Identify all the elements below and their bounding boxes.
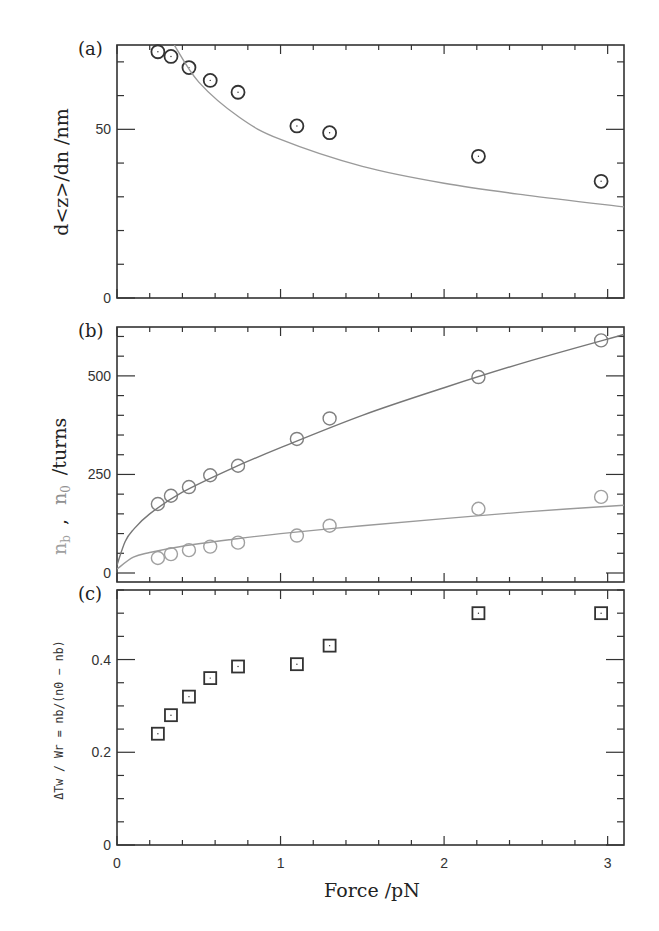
plot-frame — [117, 45, 624, 298]
fit-curve — [174, 45, 624, 207]
x-tick-label: 1 — [277, 855, 285, 871]
center-dot — [329, 645, 330, 646]
center-dot — [237, 92, 238, 93]
y-tick-label: 500 — [88, 368, 112, 384]
center-dot — [170, 56, 171, 57]
x-tick-label: 0 — [113, 855, 121, 871]
circle-marker — [323, 519, 336, 532]
center-dot — [237, 666, 238, 667]
circle-marker — [472, 502, 485, 515]
panel-c: 00.20.4(c) — [78, 583, 624, 853]
fit-curve — [117, 505, 624, 569]
circle-marker — [151, 552, 164, 565]
center-dot — [329, 132, 330, 133]
y-axis-label-b: nb,n0/turns — [48, 418, 73, 555]
y-tick-label: 0 — [103, 565, 111, 581]
x-axis-label: Force /pN — [324, 879, 420, 901]
center-dot — [478, 156, 479, 157]
y-tick-label: 0.2 — [92, 744, 112, 760]
y-tick-label: 50 — [95, 121, 111, 137]
center-dot — [600, 612, 601, 613]
center-dot — [600, 181, 601, 182]
figure: 050(a)0250500(b)00.20.4(c)0123Force /pNd… — [0, 0, 659, 931]
circle-marker — [595, 490, 608, 503]
y-axis-label-c: ΔTw / Wr = nb/(n0 − nb) — [52, 640, 66, 799]
y-tick-label: 250 — [88, 466, 112, 482]
y-tick-label: 0 — [103, 837, 111, 853]
center-dot — [210, 677, 211, 678]
center-dot — [170, 714, 171, 715]
panel-tag: (b) — [78, 320, 104, 341]
panel-tag: (c) — [78, 583, 102, 604]
panel-a: 050(a) — [78, 38, 624, 306]
circle-marker — [323, 412, 336, 425]
center-dot — [157, 733, 158, 734]
plot-frame — [117, 327, 624, 582]
y-axis-label-a: d<z>/dn /nm — [50, 108, 72, 236]
x-tick-label: 3 — [604, 855, 612, 871]
center-dot — [157, 51, 158, 52]
center-dot — [210, 80, 211, 81]
center-dot — [188, 696, 189, 697]
fit-curve — [117, 334, 624, 565]
center-dot — [296, 125, 297, 126]
panel-b: 0250500(b) — [78, 320, 624, 582]
center-dot — [296, 663, 297, 664]
panel-tag: (a) — [78, 38, 103, 59]
center-dot — [478, 612, 479, 613]
y-tick-label: 0 — [103, 290, 111, 306]
plot-frame — [117, 590, 624, 845]
x-tick-label: 2 — [440, 855, 448, 871]
y-tick-label: 0.4 — [92, 652, 112, 668]
